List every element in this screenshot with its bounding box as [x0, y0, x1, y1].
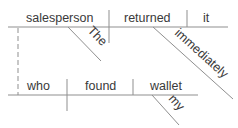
- verb-modifier: immediately: [172, 26, 231, 82]
- main-verb: returned: [124, 11, 171, 25]
- relative-subject: who: [26, 79, 50, 93]
- sentence-diagram: salesperson returned it The immediately …: [0, 0, 238, 128]
- relative-verb: found: [85, 79, 116, 93]
- main-subject: salesperson: [26, 11, 93, 25]
- main-object: it: [203, 11, 210, 25]
- relative-object: wallet: [149, 79, 182, 93]
